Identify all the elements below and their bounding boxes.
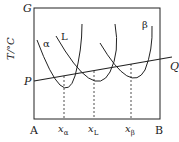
- phase-diagram-svg: [0, 0, 179, 142]
- beta-curve: [100, 26, 152, 78]
- a-label: A: [30, 125, 38, 136]
- x-alpha-label: xα: [58, 124, 68, 137]
- common-tangent-line: [34, 57, 172, 81]
- x-beta-label: xβ: [125, 124, 135, 137]
- g-axis-label: G: [23, 3, 32, 14]
- alpha-curve: [37, 24, 82, 88]
- temperature-axis-label: T/°C: [6, 37, 16, 60]
- p-label: P: [24, 76, 31, 87]
- b-label: B: [155, 125, 163, 136]
- q-label: Q: [170, 61, 179, 72]
- x-liquid-label: xL: [88, 124, 98, 137]
- alpha-label: α: [43, 39, 50, 49]
- liquid-label: L: [61, 32, 68, 42]
- beta-label: β: [142, 20, 148, 30]
